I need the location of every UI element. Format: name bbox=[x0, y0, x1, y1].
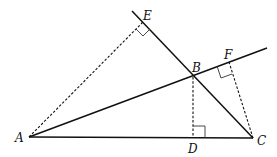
right-angle-marker-f bbox=[217, 66, 232, 78]
segment-ac bbox=[29, 137, 253, 138]
label-c: C bbox=[257, 134, 266, 148]
label-e: E bbox=[142, 9, 152, 23]
label-b: B bbox=[191, 61, 201, 75]
perpendicular-ae bbox=[29, 22, 143, 137]
right-angle-marker-d bbox=[193, 126, 205, 138]
label-a: A bbox=[14, 131, 24, 145]
right-angle-marker-e bbox=[136, 29, 150, 36]
geometry-diagram: A B C D E F bbox=[0, 0, 277, 157]
label-d: D bbox=[187, 142, 198, 156]
label-f: F bbox=[223, 48, 233, 62]
perpendicular-cf bbox=[229, 62, 253, 138]
